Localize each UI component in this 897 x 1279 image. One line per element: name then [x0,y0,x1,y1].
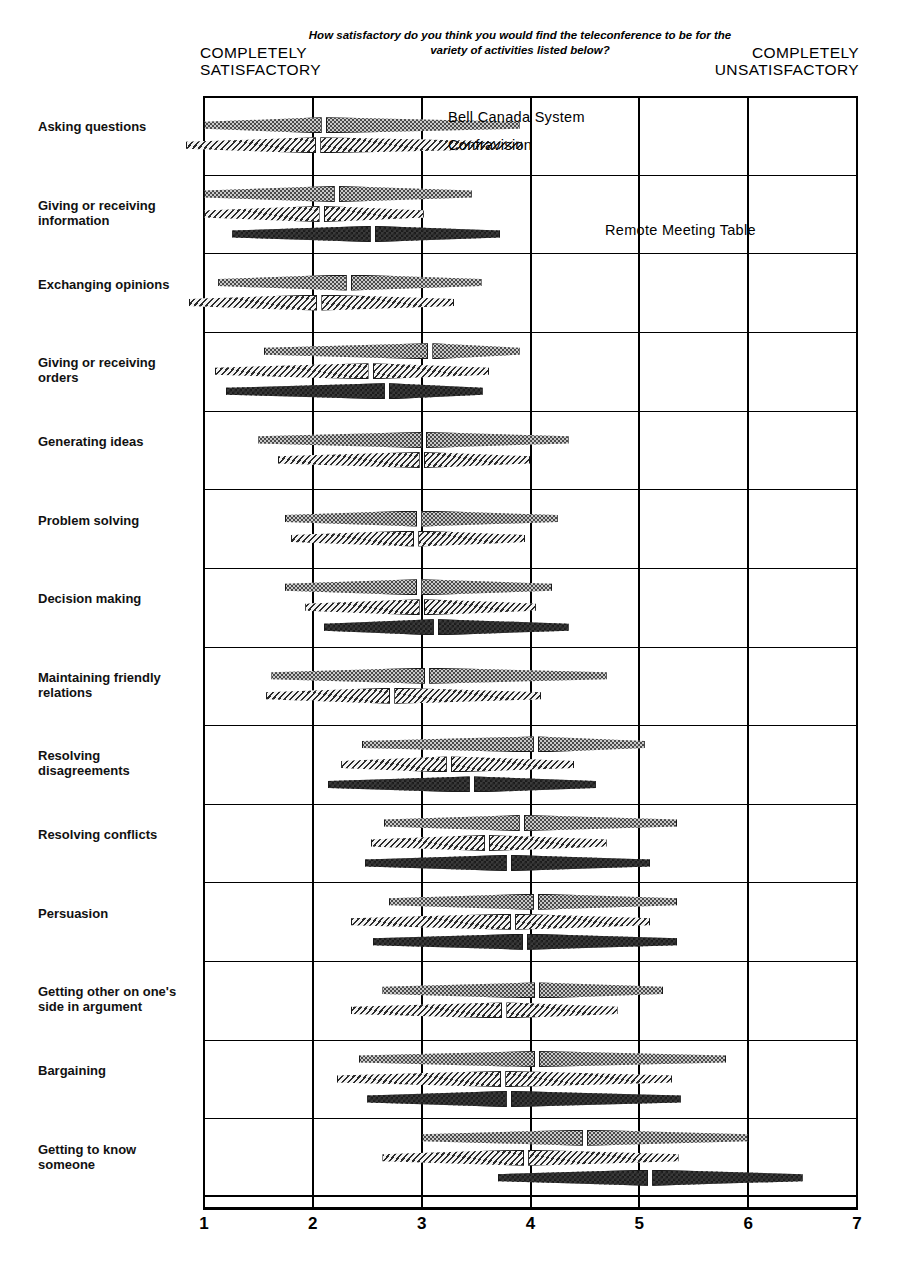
bar-segment-median-to-high [511,855,650,871]
bar-segment-low-to-median [498,1170,648,1186]
bar-confravision [278,452,530,468]
bar-segment-low-to-median [422,1130,583,1146]
bar-bell [218,275,481,291]
bar-segment-median-to-high [451,756,574,772]
bar-segment-low-to-median [337,1071,502,1087]
bar-segment-median-to-high [321,295,454,311]
chart-root: COMPLETELY SATISFACTORY COMPLETELY UNSAT… [0,0,897,1279]
x-tick-label-3: 3 [417,1214,426,1234]
bar-bell [204,186,472,202]
bar-segment-low-to-median [285,579,418,595]
bar-segment-median-to-high [426,432,569,448]
row-divider [204,961,857,962]
category-label: Giving or receiving information [38,198,198,228]
x-tick-6 [747,1197,749,1209]
row-divider [204,411,857,412]
bar-confravision [351,1002,618,1018]
bar-segment-median-to-high [506,1002,617,1018]
bar-segment-median-to-high [438,619,569,635]
bar-segment-low-to-median [291,531,414,547]
category-label: Asking questions [38,119,198,134]
bar-segment-low-to-median [186,137,317,153]
bar-segment-low-to-median [266,688,390,704]
bar-bell [384,815,678,831]
bar-segment-low-to-median [324,619,434,635]
category-label: Generating ideas [38,434,198,449]
row-divider [204,804,857,805]
row-divider [204,647,857,648]
bar-bell [389,894,677,910]
x-tick-1 [203,1197,205,1209]
bar-segment-low-to-median [305,599,419,615]
bar-rmt [498,1170,803,1186]
bar-segment-median-to-high [418,531,525,547]
bar-segment-median-to-high [324,206,424,222]
bar-rmt [324,619,569,635]
category-label: Problem solving [38,513,198,528]
category-label: Resolving disagreements [38,748,198,778]
category-label: Getting to know someone [38,1142,198,1172]
bar-segment-median-to-high [538,894,677,910]
row-divider [204,568,857,569]
category-label: Decision making [38,591,198,606]
bar-segment-low-to-median [258,432,421,448]
bar-confravision [341,756,574,772]
bar-bell [359,1051,727,1067]
row-divider [204,725,857,726]
category-label: Maintaining friendly relations [38,670,198,700]
bar-segment-low-to-median [285,511,418,527]
bar-confravision [266,688,541,704]
bar-rmt [226,383,483,399]
row-divider [204,882,857,883]
bar-segment-low-to-median [351,914,511,930]
bar-segment-median-to-high [528,1150,678,1166]
bar-confravision [189,295,455,311]
bar-segment-low-to-median [359,1051,535,1067]
bar-segment-median-to-high [432,343,519,359]
bar-segment-median-to-high [389,383,483,399]
x-tick-7 [856,1197,858,1209]
bar-segment-median-to-high [524,815,678,831]
bar-segment-low-to-median [373,934,523,950]
bar-confravision [371,835,607,851]
bar-segment-median-to-high [429,668,607,684]
x-tick-label-4: 4 [526,1214,535,1234]
bar-segment-low-to-median [382,1150,524,1166]
bar-segment-median-to-high [527,934,677,950]
x-tick-label-7: 7 [852,1214,861,1234]
row-divider [204,253,857,254]
bar-bell [271,668,606,684]
bar-segment-low-to-median [271,668,425,684]
bar-confravision [291,531,525,547]
bar-segment-low-to-median [367,1091,506,1107]
bar-segment-median-to-high [373,363,490,379]
category-label: Persuasion [38,906,198,921]
category-label: Exchanging opinions [38,277,198,292]
bar-segment-low-to-median [382,982,535,998]
bar-segment-low-to-median [351,1002,502,1018]
bar-segment-median-to-high [339,186,472,202]
row-divider [204,489,857,490]
x-tick-label-6: 6 [743,1214,752,1234]
bar-segment-median-to-high [539,1051,726,1067]
bar-segment-low-to-median [264,343,429,359]
bar-bell [285,579,553,595]
bar-segment-low-to-median [215,363,369,379]
bar-confravision [337,1071,672,1087]
bar-segment-low-to-median [365,855,507,871]
bar-segment-low-to-median [341,756,447,772]
bar-segment-median-to-high [375,226,500,242]
bar-bell [264,343,520,359]
x-tick-label-1: 1 [199,1214,208,1234]
x-tick-3 [421,1197,423,1209]
bar-bell [382,982,663,998]
category-label: Resolving conflicts [38,827,198,842]
legend-label-confravision: Confravision [448,137,532,153]
category-label: Getting other on one's side in argument [38,984,198,1014]
bar-segment-median-to-high [511,1091,681,1107]
bar-confravision [305,599,536,615]
bar-rmt [328,776,596,792]
bar-bell [362,736,645,752]
row-divider [204,1040,857,1041]
row-divider [204,1118,857,1119]
